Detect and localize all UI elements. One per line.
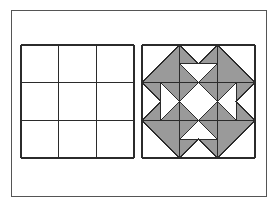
cell-r2-c1 [59,120,97,158]
cell-fill [21,45,59,83]
cell-bottom-left [142,120,180,158]
cell-middle-right [217,83,255,121]
cell-r1-c2 [96,83,134,121]
cell-top-center [180,45,218,83]
cell-fill [96,120,134,158]
cell-fill [96,45,134,83]
cell-top-right [217,45,255,83]
cell-r2-c2 [96,120,134,158]
cell-center [180,83,218,121]
cell-r0-c0 [21,45,59,83]
cell-r0-c1 [59,45,97,83]
cell-bottom-right [217,120,255,158]
cell-middle-left [142,83,180,121]
figure-canvas [0,0,274,206]
plain-nine-patch-grid [21,45,134,158]
cell-r0-c2 [96,45,134,83]
cell-fill [59,45,97,83]
cell-fill [59,83,97,121]
cell-bottom-center [180,120,218,158]
cell-fill [21,83,59,121]
cell-top-left [142,45,180,83]
cell-r2-c0 [21,120,59,158]
shaded-quilt-block [142,45,255,158]
figure-root [0,0,274,206]
cell-r1-c1 [59,83,97,121]
cell-r1-c0 [21,83,59,121]
cell-fill [21,120,59,158]
cell-fill [96,83,134,121]
cell-fill [59,120,97,158]
